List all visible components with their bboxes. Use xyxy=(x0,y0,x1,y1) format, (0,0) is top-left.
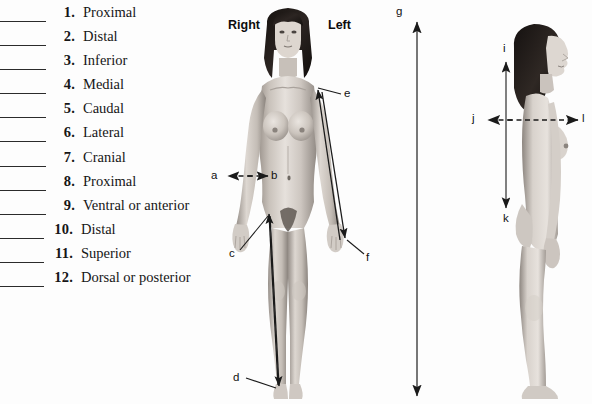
pubic-region xyxy=(280,208,297,233)
foot-lateral xyxy=(522,386,558,399)
list-item-number: 10. xyxy=(47,221,73,238)
neck-shape xyxy=(540,74,554,94)
marker-c: c xyxy=(229,248,235,260)
knee-lateral xyxy=(525,295,543,321)
list-item[interactable]: 7. Cranial xyxy=(0,149,205,173)
list-item-label: Medial xyxy=(83,76,124,93)
answer-blank-4[interactable] xyxy=(0,79,46,94)
list-item[interactable]: 10. Distal xyxy=(0,221,205,245)
nipple-profile xyxy=(564,144,569,149)
list-item[interactable]: 9. Ventral or anterior xyxy=(0,197,205,221)
answer-blank-10[interactable] xyxy=(0,224,44,239)
list-item[interactable]: 1. Proximal xyxy=(0,4,205,28)
breast-left xyxy=(288,111,314,141)
eye-right xyxy=(291,31,296,34)
lateral-body-figure xyxy=(492,18,588,402)
marker-g: g xyxy=(396,6,402,18)
list-item-label: Dorsal or posterior xyxy=(81,269,191,286)
list-item-label: Proximal xyxy=(83,4,136,21)
list-item-label: Superior xyxy=(81,245,131,262)
eye-left xyxy=(279,31,284,34)
list-item[interactable]: 3. Inferior xyxy=(0,52,205,76)
marker-d: d xyxy=(233,372,239,384)
anterior-body-figure xyxy=(222,6,354,402)
list-item[interactable]: 6. Lateral xyxy=(0,124,205,148)
list-item[interactable]: 11. Superior xyxy=(0,245,205,269)
list-item-number: 7. xyxy=(49,149,75,166)
answer-blank-5[interactable] xyxy=(0,103,46,118)
marker-l: l xyxy=(582,113,585,125)
list-item[interactable]: 8. Proximal xyxy=(0,173,205,197)
knee-left xyxy=(292,281,306,301)
marker-f: f xyxy=(366,252,369,264)
foot-left xyxy=(289,384,303,399)
list-item-number: 12. xyxy=(47,269,73,286)
list-item[interactable]: 4. Medial xyxy=(0,76,205,100)
answer-blank-1[interactable] xyxy=(0,7,46,22)
marker-j: j xyxy=(472,113,475,125)
list-item-number: 6. xyxy=(49,124,75,141)
answer-blank-8[interactable] xyxy=(0,176,46,191)
list-item-number: 8. xyxy=(49,173,75,190)
list-item-label: Lateral xyxy=(83,124,124,141)
navel xyxy=(287,176,290,181)
answer-blank-9[interactable] xyxy=(0,200,46,215)
marker-a: a xyxy=(211,170,217,182)
foot-right xyxy=(273,384,288,399)
list-item-number: 5. xyxy=(49,100,75,117)
list-item-label: Caudal xyxy=(83,100,124,117)
hand-left xyxy=(327,224,344,252)
list-item-label: Distal xyxy=(81,221,116,238)
nipple-left xyxy=(299,127,304,132)
list-item-label: Cranial xyxy=(83,149,126,166)
face-profile xyxy=(546,36,568,77)
knee-right xyxy=(271,281,285,301)
leg-left xyxy=(288,228,308,384)
answer-blank-6[interactable] xyxy=(0,127,46,142)
marker-i: i xyxy=(503,43,506,55)
list-item-label: Ventral or anterior xyxy=(83,197,189,214)
list-item-label: Proximal xyxy=(83,173,136,190)
list-item[interactable]: 2. Distal xyxy=(0,28,205,52)
list-item-number: 3. xyxy=(49,52,75,69)
list-item-label: Inferior xyxy=(83,52,127,69)
answer-blank-11[interactable] xyxy=(0,248,44,263)
list-item-label: Distal xyxy=(83,28,118,45)
answer-blank-12[interactable] xyxy=(0,272,44,287)
list-item-number: 4. xyxy=(49,76,75,93)
marker-b: b xyxy=(271,170,277,182)
answer-blank-2[interactable] xyxy=(0,31,46,46)
answer-blank-3[interactable] xyxy=(0,55,46,70)
list-item-number: 11. xyxy=(47,245,73,262)
marker-k: k xyxy=(503,213,509,225)
answer-blank-7[interactable] xyxy=(0,152,46,167)
breast-right xyxy=(263,111,289,141)
list-item-number: 9. xyxy=(49,197,75,214)
anatomy-directional-terms-worksheet: 1. Proximal 2. Distal 3. Inferior 4. Med… xyxy=(0,0,592,404)
answer-list: 1. Proximal 2. Distal 3. Inferior 4. Med… xyxy=(0,4,205,293)
neck-shape xyxy=(279,58,297,79)
list-item[interactable]: 5. Caudal xyxy=(0,100,205,124)
leg-right xyxy=(268,228,288,384)
list-item-number: 2. xyxy=(49,28,75,45)
list-item-number: 1. xyxy=(49,4,75,21)
nipple-right xyxy=(272,127,277,132)
list-item[interactable]: 12. Dorsal or posterior xyxy=(0,269,205,293)
side-label-right: Right xyxy=(228,18,260,32)
side-label-left: Left xyxy=(328,18,351,32)
marker-e: e xyxy=(344,88,350,100)
